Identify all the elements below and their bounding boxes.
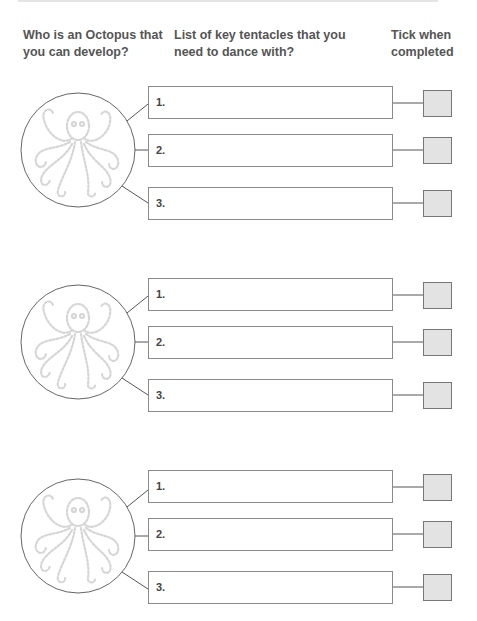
item-number: 2. bbox=[156, 336, 165, 348]
tentacle-input[interactable] bbox=[173, 576, 388, 599]
tentacle-entry-box[interactable]: 3. bbox=[148, 187, 393, 220]
completion-checkbox[interactable] bbox=[423, 382, 452, 409]
tentacle-input[interactable] bbox=[173, 283, 388, 306]
tentacle-entry-box[interactable]: 3. bbox=[148, 379, 393, 412]
octopus-illustration-icon bbox=[21, 285, 135, 399]
completion-checkbox[interactable] bbox=[423, 574, 452, 601]
tentacle-input[interactable] bbox=[173, 475, 388, 498]
completion-checkbox[interactable] bbox=[423, 329, 452, 356]
tentacle-entry-box[interactable]: 1. bbox=[148, 470, 393, 503]
tentacle-input[interactable] bbox=[173, 91, 388, 114]
item-number: 2. bbox=[156, 144, 165, 156]
octopus-illustration-icon bbox=[21, 93, 135, 207]
item-number: 1. bbox=[156, 96, 165, 108]
item-number: 1. bbox=[156, 480, 165, 492]
item-number: 3. bbox=[156, 389, 165, 401]
tentacle-input[interactable] bbox=[173, 523, 388, 546]
octopus-illustration-icon bbox=[21, 479, 135, 593]
tentacle-entry-box[interactable]: 1. bbox=[148, 86, 393, 119]
tentacle-entry-box[interactable]: 2. bbox=[148, 134, 393, 167]
tentacle-input[interactable] bbox=[173, 331, 388, 354]
tentacle-entry-box[interactable]: 1. bbox=[148, 278, 393, 311]
tentacle-input[interactable] bbox=[173, 139, 388, 162]
item-number: 2. bbox=[156, 528, 165, 540]
completion-checkbox[interactable] bbox=[423, 190, 452, 217]
tentacle-input[interactable] bbox=[173, 192, 388, 215]
completion-checkbox[interactable] bbox=[423, 90, 452, 117]
completion-checkbox[interactable] bbox=[423, 521, 452, 548]
tentacle-entry-box[interactable]: 2. bbox=[148, 326, 393, 359]
tentacle-entry-box[interactable]: 2. bbox=[148, 518, 393, 551]
item-number: 3. bbox=[156, 197, 165, 209]
completion-checkbox[interactable] bbox=[423, 282, 452, 309]
tentacle-input[interactable] bbox=[173, 384, 388, 407]
completion-checkbox[interactable] bbox=[423, 137, 452, 164]
tentacle-entry-box[interactable]: 3. bbox=[148, 571, 393, 604]
completion-checkbox[interactable] bbox=[423, 474, 452, 501]
item-number: 1. bbox=[156, 288, 165, 300]
item-number: 3. bbox=[156, 581, 165, 593]
